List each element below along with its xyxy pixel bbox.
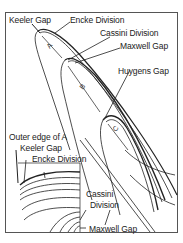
label-cassini-division: Cassini Division — [100, 28, 158, 38]
inset-label-keeler-gap: Keeler Gap — [20, 143, 62, 153]
label-huygens-gap: Huygens Gap — [118, 66, 169, 76]
label-encke-division: Encke Division — [70, 15, 124, 25]
inset-label-maxwell-gap: Maxwell Gap — [89, 224, 137, 234]
label-keeler-gap: Keeler Gap — [9, 15, 51, 25]
inset-label-encke-division: Encke Division — [32, 154, 86, 164]
label-maxwell-gap: Maxwell Gap — [120, 41, 168, 51]
inset-label-division: Division — [90, 200, 119, 210]
inset-label-cassini: Cassini — [86, 189, 113, 199]
inset-label-outer-edge-a: Outer edge of A — [9, 132, 67, 142]
